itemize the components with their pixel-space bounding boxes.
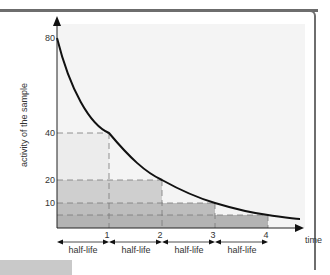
half-life-label-2: half-life xyxy=(121,245,150,255)
x-tick-1: 1 xyxy=(104,230,109,240)
x-tick-2: 2 xyxy=(157,230,162,240)
x-tick-4: 4 xyxy=(263,230,268,240)
half-life-label-4: half-life xyxy=(227,245,256,255)
half-life-label-1: half-life xyxy=(68,245,97,255)
half-life-label-3: half-life xyxy=(174,245,203,255)
y-tick-80: 80 xyxy=(45,33,55,43)
y-tick-20: 20 xyxy=(45,175,55,185)
y-axis-arrow-icon xyxy=(53,16,61,26)
y-tick-40: 40 xyxy=(45,128,55,138)
x-axis-label: time xyxy=(305,235,322,245)
x-tick-3: 3 xyxy=(210,230,215,240)
half-life-chart: 80 40 20 10 activity of the sample 1 2 3… xyxy=(0,0,330,275)
bar-interval-4 xyxy=(57,215,268,228)
y-tick-10: 10 xyxy=(45,198,55,208)
y-axis-label: activity of the sample xyxy=(19,83,29,167)
